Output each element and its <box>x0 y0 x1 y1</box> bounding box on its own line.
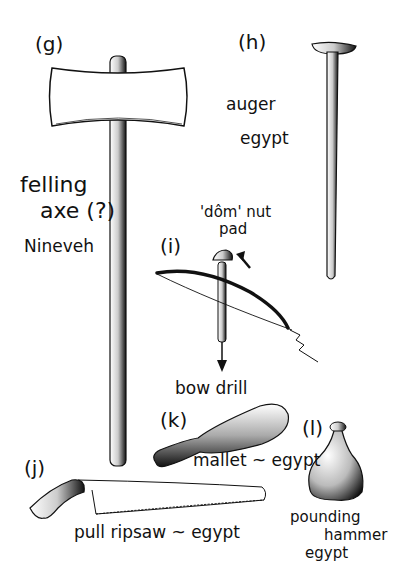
felling-axe-name: felling <box>20 174 88 196</box>
pull-ripsaw-drawing <box>30 480 266 519</box>
felling-axe-drawing <box>50 56 188 466</box>
label-j: (j) <box>24 458 45 478</box>
illustration-drawings <box>0 0 400 583</box>
auger-origin: egypt <box>240 130 289 147</box>
bow-drill-annotation-dom-nut: 'dôm' nut <box>200 205 271 220</box>
mallet-name: mallet ~ egypt <box>193 452 320 469</box>
felling-axe-name-2: axe (?) <box>40 200 115 222</box>
label-i: (i) <box>160 236 181 256</box>
label-k: (k) <box>160 410 187 430</box>
tools-illustration-plate: (g) felling axe (?) Nineveh (h) auger eg… <box>0 0 400 583</box>
bow-drill-drawing <box>157 250 318 372</box>
label-h: (h) <box>238 32 266 52</box>
pounding-hammer-name: pounding <box>290 510 360 525</box>
label-g: (g) <box>35 34 63 54</box>
bow-drill-name: bow drill <box>175 380 247 397</box>
pounding-hammer-name-2: hammer <box>324 528 387 543</box>
auger-drawing <box>312 42 356 279</box>
auger-name: auger <box>226 96 275 113</box>
ripsaw-name: pull ripsaw ~ egypt <box>74 524 240 541</box>
felling-axe-origin: Nineveh <box>24 238 94 255</box>
pounding-hammer-origin: egypt <box>305 546 348 561</box>
bow-drill-annotation-pad: pad <box>219 222 247 237</box>
label-l: (l) <box>302 418 323 438</box>
